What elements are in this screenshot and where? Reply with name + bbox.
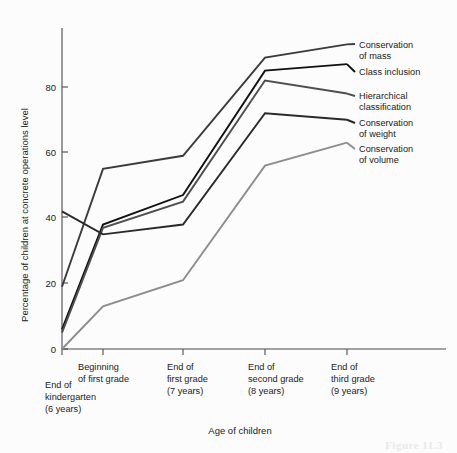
x-category-label-beginning-of-first-grade: Beginning of first grade [78,362,129,384]
series-group [62,44,347,349]
cat-line-1: End of [45,380,72,390]
legend-line-2: of mass [359,51,392,61]
legend-line-1: Conservation [359,40,413,50]
cat-line-2: second grade [248,374,304,384]
legend-item-conservation-of-volume: Conservation of volume [359,144,416,165]
legend-line-1: Conservation [359,144,413,154]
legend-line-1: Hierarchical [359,91,408,101]
cat-line-1: End of [167,362,194,372]
cat-line-1: Beginning [78,362,119,372]
legend-item-conservation-of-weight: Conservation of weight [359,118,416,139]
y-tick-label-0: 0 [51,344,56,355]
cat-line-2: kindergarten [45,392,96,402]
y-ticks-group: 0 20 40 60 80 [45,82,68,355]
y-axis-title: Percentage of children at concrete opera… [19,108,30,322]
legend-group: Conservation of mass Class inclusion Hie… [359,40,420,165]
x-axis-title: Age of children [208,425,271,436]
leader-line-conservation-of-volume [347,143,355,149]
x-category-label-end-of-second-grade: End of second grade (8 years) [248,362,306,396]
cat-line-1: End of [248,362,275,372]
series-line-hierarchical-classification [62,80,347,332]
legend-item-class-inclusion: Class inclusion [359,67,420,77]
legend-item-hierarchical-classification: Hierarchical classification [359,91,411,112]
leader-line-class-inclusion [347,64,355,72]
series-line-conservation-of-volume [62,143,347,349]
y-tick-label-40: 40 [45,212,56,223]
legend-line-2: classification [359,102,411,112]
legend-item-conservation-of-mass: Conservation of mass [359,40,416,61]
figure-caption: Figure 11.3 [385,439,443,451]
y-tick-label-80: 80 [45,82,56,93]
x-category-label-end-of-first-grade: End of first grade (7 years) [167,362,210,396]
cat-line-2: first grade [167,374,208,384]
legend-line-1: Class inclusion [359,67,420,77]
cat-line-2: third grade [331,374,375,384]
cat-line-3: (6 years) [45,404,81,414]
cat-line-3: (9 years) [331,386,367,396]
cat-line-1: End of [331,362,358,372]
figure-container: 0 20 40 60 80 [0,0,457,453]
y-tick-label-20: 20 [45,278,56,289]
leader-line-conservation-of-weight [347,120,355,123]
cat-line-3: (7 years) [167,386,203,396]
legend-line-2: of volume [359,155,399,165]
x-category-labels-group: End of kindergarten (6 years) Beginning … [45,362,378,414]
legend-line-2: of weight [359,129,396,139]
legend-leaders-group [347,44,355,149]
legend-line-1: Conservation [359,118,413,128]
x-category-label-end-of-kindergarten: End of kindergarten (6 years) [45,380,99,414]
x-ticks-group [62,349,347,355]
cat-line-3: (8 years) [248,386,284,396]
cat-line-2: of first grade [78,374,129,384]
y-tick-label-60: 60 [45,147,56,158]
leader-line-hierarchical-classification [347,94,355,96]
line-chart: 0 20 40 60 80 [0,0,457,453]
x-category-label-end-of-third-grade: End of third grade (9 years) [331,362,378,396]
